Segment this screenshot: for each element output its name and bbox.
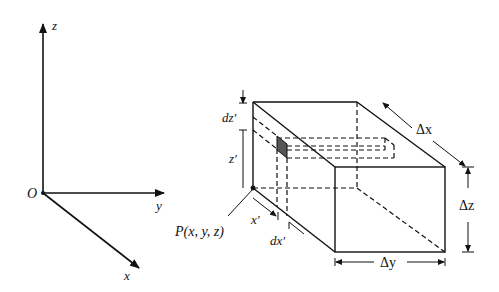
dz-prime-label: dz' [222,110,237,125]
x-prime-dimension [253,198,304,234]
coordinate-axes [43,24,164,268]
dx-prime-label: dx' [270,233,285,248]
shaded-element [277,136,287,158]
x-prime-label: x' [250,212,260,227]
origin-label: O [27,186,37,201]
y-axis-label: y [154,198,162,213]
x-axis [43,193,139,268]
z-axis-label: z [51,18,57,33]
origin-dot [41,191,45,195]
delta-y-label: Δy [380,255,396,270]
z-prime-dimension [239,90,247,188]
delta-x-label: Δx [416,122,432,137]
diagram-canvas: O z y x P( [0,0,499,292]
point-p-leader [228,189,253,216]
x-axis-label: x [123,268,130,283]
point-p-label: P(x, y, z) [174,224,224,240]
z-prime-label: z' [228,151,237,166]
delta-z-label: Δz [459,198,474,213]
